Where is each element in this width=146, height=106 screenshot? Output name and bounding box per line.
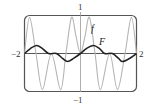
- curve-F-label: F: [98, 36, 106, 47]
- x-max-tick-label: 2: [139, 49, 144, 59]
- function-plot: 1 −1 −2 2 f F: [0, 0, 146, 106]
- y-max-tick-label: 1: [78, 2, 83, 12]
- x-min-tick-label: −2: [11, 49, 21, 59]
- y-min-tick-label: −1: [73, 95, 83, 105]
- curve-f-label: f: [91, 23, 95, 34]
